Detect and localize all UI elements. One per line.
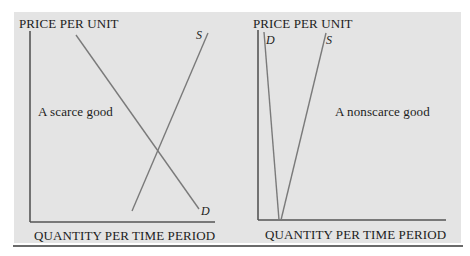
left-x-axis-label: QUANTITY PER TIME PERIOD: [34, 229, 215, 242]
left-supply-curve: [132, 33, 208, 211]
right-y-axis-label: PRICE PER UNIT: [253, 17, 353, 30]
left-demand-label: D: [201, 205, 210, 217]
supply-demand-diagrams: [0, 0, 470, 256]
left-demand-curve: [76, 35, 199, 209]
right-supply-curve: [281, 33, 326, 220]
right-x-axis-label: QUANTITY PER TIME PERIOD: [265, 228, 446, 241]
left-annotation: A scarce good: [38, 105, 113, 118]
right-annotation: A nonscarce good: [335, 105, 430, 118]
right-demand-label: D: [266, 34, 275, 46]
right-supply-label: S: [326, 34, 332, 46]
bottom-rule-divider: [13, 245, 463, 247]
right-demand-curve: [264, 32, 279, 220]
right-chart-nonscarce-good: [258, 30, 446, 220]
left-supply-label: S: [196, 29, 202, 41]
left-y-axis-label: PRICE PER UNIT: [19, 17, 119, 30]
left-chart-scarce-good: [30, 31, 215, 222]
